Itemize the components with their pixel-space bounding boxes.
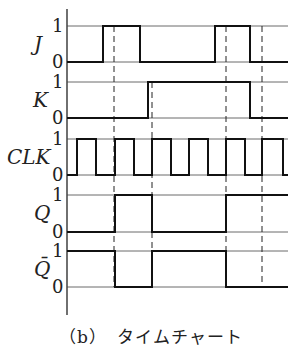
timing-chart [0, 0, 302, 348]
waveform-q [67, 195, 288, 232]
signal-label-j: J [34, 32, 42, 56]
figure-caption: （b） タイムチャート [0, 323, 302, 348]
level-label-k-0: 0 [52, 107, 63, 128]
signal-label-k: K [33, 88, 48, 112]
level-label-clk-0: 0 [52, 164, 63, 185]
level-label-q-0: 0 [52, 221, 63, 242]
waveform-q-bar [67, 251, 288, 287]
level-label-j-0: 0 [52, 51, 63, 72]
signal-label-clk: CLK [7, 145, 51, 169]
waveform-clk [67, 139, 288, 175]
reference-lines [67, 26, 288, 287]
level-label-j-1: 1 [52, 15, 63, 36]
waveform-k [67, 82, 288, 118]
waveform-j [67, 26, 288, 62]
signal-label-q-bar: Q̄ [34, 257, 50, 281]
level-label-q-1: 1 [52, 184, 63, 205]
level-label-clk-1: 1 [52, 128, 63, 149]
signal-label-q: Q [34, 201, 50, 225]
level-label-q-bar-1: 1 [52, 240, 63, 261]
level-label-q-bar-0: 0 [52, 276, 63, 297]
level-label-k-1: 1 [52, 71, 63, 92]
